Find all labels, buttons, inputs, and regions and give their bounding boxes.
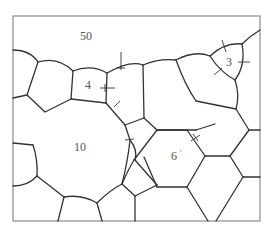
grain-boundaries xyxy=(13,30,260,221)
grain-boundary-diagram: 50 4 3 10 6 ' xyxy=(0,0,271,230)
grain-label-50: 50 xyxy=(80,29,92,43)
arrow-icon xyxy=(125,139,134,140)
grain-label-6: 6 xyxy=(171,149,177,163)
grain-label-3: 3 xyxy=(226,55,232,69)
arrow-icon xyxy=(214,68,222,75)
grain-labels: 50 4 3 10 6 ' xyxy=(74,29,232,163)
grain-label-10: 10 xyxy=(74,140,86,154)
grain-label-4: 4 xyxy=(85,78,91,92)
grain-label-6-prime: ' xyxy=(180,149,182,158)
arrow-icon xyxy=(114,101,120,107)
